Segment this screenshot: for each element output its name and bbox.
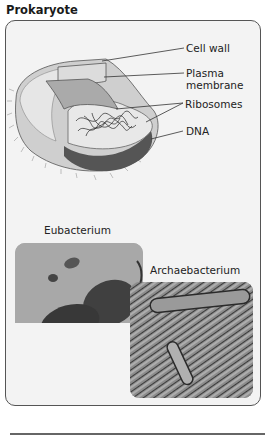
label-plasma-membrane: Plasma membrane (186, 67, 243, 91)
archaebacterium-photo (130, 282, 253, 398)
label-ribosomes: Ribosomes (185, 98, 242, 110)
label-archaebacterium: Archaebacterium (150, 264, 240, 276)
figure-title: Prokaryote (6, 3, 78, 17)
label-dna: DNA (186, 125, 209, 137)
eubacterium-photo (15, 243, 143, 323)
label-cell-wall: Cell wall (186, 42, 230, 54)
label-eubacterium: Eubacterium (44, 224, 111, 236)
bottom-divider (10, 433, 265, 435)
label-plasma: Plasma (186, 67, 243, 79)
label-membrane: membrane (186, 79, 243, 91)
prokaryote-panel: Cell wall Plasma membrane Ribosomes DNA … (5, 20, 261, 406)
